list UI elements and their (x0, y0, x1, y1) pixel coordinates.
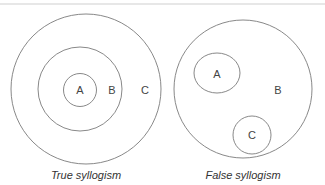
true-syllogism-diagram: A B C True syllogism (11, 14, 161, 181)
set-a-label: A (76, 84, 84, 96)
true-syllogism-caption: True syllogism (51, 169, 121, 181)
set-a-label: A (213, 68, 221, 80)
false-syllogism-diagram: A B C False syllogism (174, 20, 312, 181)
false-syllogism-caption: False syllogism (205, 169, 280, 181)
set-c-label: C (141, 84, 149, 96)
set-c-label: C (248, 129, 256, 141)
set-b-label: B (108, 84, 115, 96)
syllogism-figure: A B C True syllogism A B C False syllogi… (0, 0, 325, 185)
set-c-circle (11, 14, 161, 164)
set-b-circle (174, 20, 312, 158)
set-b-label: B (274, 84, 281, 96)
